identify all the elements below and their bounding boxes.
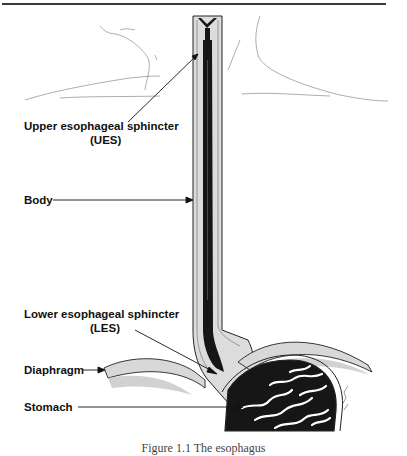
label-body: Body [24, 193, 53, 207]
label-les-abbr: (LES) [24, 321, 179, 335]
label-les-name: Lower esophageal sphincter [24, 307, 179, 321]
figure-caption: Figure 1.1 The esophagus [0, 441, 407, 456]
label-diaphragm: Diaphragm [24, 363, 84, 377]
esophagus [193, 16, 253, 405]
neck-sketch-right [228, 16, 388, 101]
label-ues-abbr: (UES) [24, 133, 179, 147]
ues-leader [128, 54, 198, 122]
esophagus-wall [193, 16, 253, 405]
label-ues-name: Upper esophageal sphincter [24, 119, 179, 133]
neck-sketch-left [25, 26, 160, 100]
label-ues: Upper esophageal sphincter (UES) [24, 119, 179, 147]
label-les: Lower esophageal sphincter (LES) [24, 307, 179, 335]
label-stomach: Stomach [24, 400, 73, 414]
